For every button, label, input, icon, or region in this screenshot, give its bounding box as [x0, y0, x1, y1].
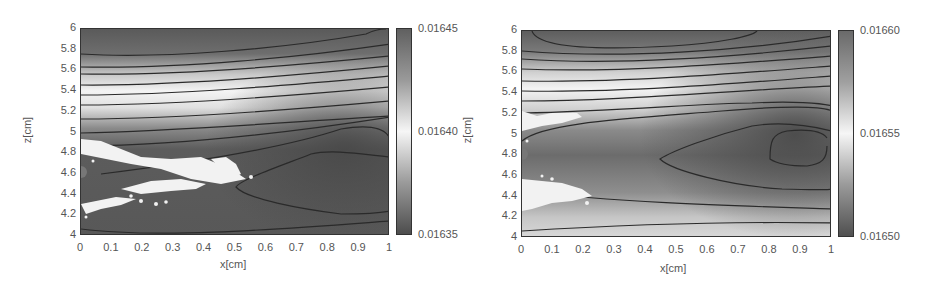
- y-tick-label: 5.8: [487, 44, 517, 56]
- y-tick-label: 6: [46, 21, 76, 33]
- x-tick-label: 0.3: [158, 241, 188, 253]
- heatmap-plot-area: [521, 30, 831, 237]
- y-tick-label: 4.4: [46, 187, 76, 199]
- y-tick-label: 5.2: [46, 104, 76, 116]
- y-tick-label: 4.8: [46, 145, 76, 157]
- x-tick-label: 1: [374, 241, 404, 253]
- x-tick-label: 0: [506, 243, 536, 255]
- x-tick-label: 0.8: [312, 241, 342, 253]
- y-tick-label: 5.8: [46, 42, 76, 54]
- colorbar: [838, 30, 854, 237]
- y-tick-label: 4.2: [487, 209, 517, 221]
- y-axis-label: z[cm]: [21, 117, 33, 143]
- x-axis-label: x[cm]: [660, 262, 686, 274]
- x-tick-label: 0.8: [754, 243, 784, 255]
- x-tick-label: 0.5: [220, 241, 250, 253]
- x-axis-label: x[cm]: [220, 258, 246, 270]
- y-tick-label: 4.4: [487, 189, 517, 201]
- y-tick-label: 5.2: [487, 106, 517, 118]
- y-tick-label: 6: [487, 23, 517, 35]
- y-tick-label: 5: [487, 127, 517, 139]
- y-tick-label: 5.4: [487, 85, 517, 97]
- x-tick-label: 0.7: [723, 243, 753, 255]
- x-tick-label: 0.3: [599, 243, 629, 255]
- colorbar-min-label: 0.01635: [418, 228, 458, 240]
- x-tick-label: 0.6: [692, 243, 722, 255]
- colorbar-max-label: 0.01645: [418, 22, 458, 34]
- colorbar-mid-label: 0.01655: [860, 127, 900, 139]
- x-tick-label: 0.2: [568, 243, 598, 255]
- colorbar: [396, 28, 412, 235]
- y-tick-label: 5: [46, 125, 76, 137]
- y-tick-label: 5.6: [487, 64, 517, 76]
- x-tick-label: 0.4: [630, 243, 660, 255]
- x-tick-label: 0.1: [96, 241, 126, 253]
- y-tick-label: 5.4: [46, 83, 76, 95]
- x-tick-label: 0.7: [281, 241, 311, 253]
- colorbar-min-label: 0.01650: [860, 230, 900, 242]
- y-axis-label: z[cm]: [461, 117, 473, 143]
- y-tick-label: 4: [46, 228, 76, 240]
- left-chart-panel: z[cm] 44.24.44.64.855.25.45.65.86: [0, 0, 470, 289]
- y-tick-label: 4.6: [46, 166, 76, 178]
- y-tick-label: 5.6: [46, 62, 76, 74]
- y-tick-label: 4: [487, 230, 517, 242]
- y-tick-label: 4.6: [487, 168, 517, 180]
- x-tick-label: 0.9: [785, 243, 815, 255]
- heatmap-plot-area: [80, 28, 389, 235]
- contour-plot-svg: [81, 29, 389, 235]
- x-tick-label: 1: [816, 243, 846, 255]
- x-tick-label: 0.9: [343, 241, 373, 253]
- colorbar-mid-label: 0.01640: [418, 125, 458, 137]
- x-tick-label: 0.6: [250, 241, 280, 253]
- x-tick-label: 0.1: [537, 243, 567, 255]
- x-tick-label: 0.4: [189, 241, 219, 253]
- x-tick-label: 0.2: [127, 241, 157, 253]
- contour-plot-svg: [522, 31, 831, 237]
- y-tick-label: 4.2: [46, 207, 76, 219]
- colorbar-max-label: 0.01660: [860, 24, 900, 36]
- x-tick-label: 0.5: [661, 243, 691, 255]
- x-tick-label: 0: [65, 241, 95, 253]
- y-tick-label: 4.8: [487, 147, 517, 159]
- right-chart-panel: z[cm] 44.24.44.64.855.25.45.65.86: [470, 0, 943, 289]
